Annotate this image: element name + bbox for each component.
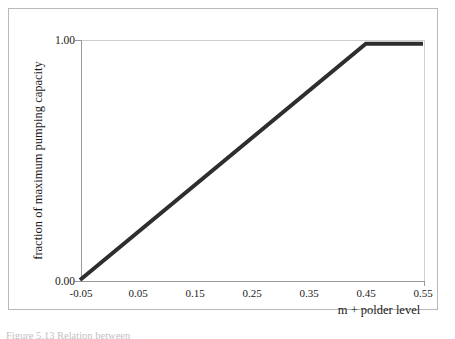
y-tick-label-1: 1.00 <box>55 34 75 46</box>
x-tick-mark-055 <box>424 281 425 286</box>
y-tick-label-0: 0.00 <box>55 275 75 287</box>
plot-top-border <box>81 40 425 41</box>
plot-right-border <box>424 40 425 282</box>
x-axis-line <box>81 281 425 282</box>
figure-frame: 1.00 0.00 -0.05 0.05 0.15 0.25 0.35 0.45… <box>8 8 438 310</box>
x-tick-label-5: 0.45 <box>344 287 388 299</box>
figure-caption: Figure 5.13 Relation between <box>6 330 306 339</box>
x-tick-label-3: 0.25 <box>230 287 274 299</box>
x-tick-label-0: -0.05 <box>59 287 103 299</box>
x-tick-label-1: 0.05 <box>116 287 160 299</box>
y-axis-line <box>81 40 82 282</box>
y-tick-mark-bottom <box>75 281 81 282</box>
x-axis-title: m + polder level <box>305 303 453 318</box>
x-tick-label-2: 0.15 <box>173 287 217 299</box>
x-tick-label-6: 0.55 <box>401 287 445 299</box>
y-axis-title: fraction of maximum pumping capacity <box>30 40 46 281</box>
y-tick-mark-top <box>75 40 81 41</box>
x-tick-label-4: 0.35 <box>287 287 331 299</box>
